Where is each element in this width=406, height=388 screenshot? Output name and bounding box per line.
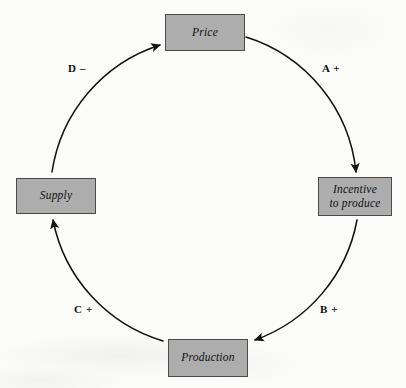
edge-arc-a bbox=[246, 37, 356, 172]
edge-arc-c bbox=[53, 220, 163, 341]
edge-label-d: D – bbox=[68, 62, 86, 74]
node-price-label: Price bbox=[190, 26, 220, 39]
node-incentive-label: Incentive to produce bbox=[327, 183, 382, 209]
diagram-canvas: Price Incentive to produce Production Su… bbox=[0, 0, 406, 388]
node-supply[interactable]: Supply bbox=[16, 178, 96, 214]
node-incentive[interactable]: Incentive to produce bbox=[318, 177, 392, 216]
edge-arc-b bbox=[255, 220, 357, 340]
edge-label-c: C + bbox=[74, 303, 93, 315]
edge-label-a: A + bbox=[322, 62, 340, 74]
node-production-label: Production bbox=[179, 351, 236, 364]
node-production[interactable]: Production bbox=[168, 339, 248, 377]
node-supply-label: Supply bbox=[38, 189, 75, 202]
node-price[interactable]: Price bbox=[165, 14, 245, 51]
edge-label-b: B + bbox=[320, 303, 338, 315]
